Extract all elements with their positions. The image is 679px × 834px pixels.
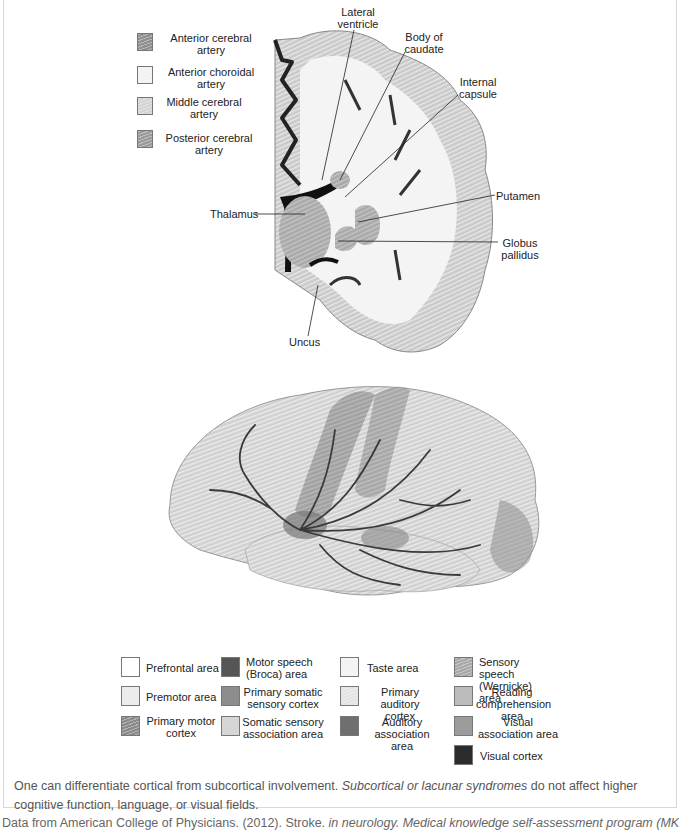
label-lateral-ventricle: Lateral ventricle xyxy=(335,6,381,30)
legend-label-taste: Taste area xyxy=(367,662,418,674)
legend-label-primary-motor: Primary motor cortex xyxy=(143,715,219,739)
legend-swatch-visual-association xyxy=(454,716,473,736)
lateral-brain-view xyxy=(0,380,679,640)
legend-label-premotor: Premotor area xyxy=(146,691,216,703)
coronal-brain-section xyxy=(0,0,679,380)
legend-swatch-taste xyxy=(340,657,359,677)
legend-swatch-broca xyxy=(221,657,240,677)
caption-text: One can differentiate cortical from subc… xyxy=(14,779,342,793)
legend-swatch-somatic-sensory-association xyxy=(221,716,240,736)
label-thalamus: Thalamus xyxy=(210,208,258,220)
legend-swatch-wernicke xyxy=(454,657,473,677)
legend-swatch-primary-somatic-sensory xyxy=(221,686,240,706)
legend-swatch-reading-comprehension xyxy=(454,686,473,706)
label-uncus: Uncus xyxy=(289,336,320,348)
legend-label-auditory-association: Auditory association area xyxy=(364,716,440,752)
legend-swatch-primary-motor xyxy=(121,716,140,736)
source-citation: Data from American College of Physicians… xyxy=(2,816,679,830)
source-title: in neurology. Medical knowledge self-ass… xyxy=(329,816,679,830)
legend-swatch-prefrontal xyxy=(121,657,140,677)
legend-label-visual-cortex: Visual cortex xyxy=(480,750,543,762)
source-prefix: Data from American College of Physicians… xyxy=(2,816,329,830)
legend-swatch-auditory-association xyxy=(340,716,359,736)
caption-emphasis: Subcortical or lacunar syndromes xyxy=(342,779,528,793)
legend-label-primary-somatic-sensory: Primary somatic sensory cortex xyxy=(242,686,324,710)
legend-swatch-premotor xyxy=(121,686,140,706)
label-globus-pallidus: Globus pallidus xyxy=(498,237,542,261)
label-body-of-caudate: Body of caudate xyxy=(404,31,444,55)
legend-label-somatic-sensory-association: Somatic sensory association area xyxy=(242,716,324,740)
legend-swatch-visual-cortex xyxy=(454,745,473,765)
legend-label-visual-association: Visual association area xyxy=(476,716,560,740)
label-putamen: Putamen xyxy=(496,190,540,202)
legend-label-prefrontal: Prefrontal area xyxy=(146,662,219,674)
legend-swatch-primary-auditory xyxy=(340,686,359,706)
label-internal-capsule: Internal capsule xyxy=(456,76,500,100)
legend-label-broca: Motor speech (Broca) area xyxy=(246,656,318,680)
figure-caption: One can differentiate cortical from subc… xyxy=(14,777,664,815)
